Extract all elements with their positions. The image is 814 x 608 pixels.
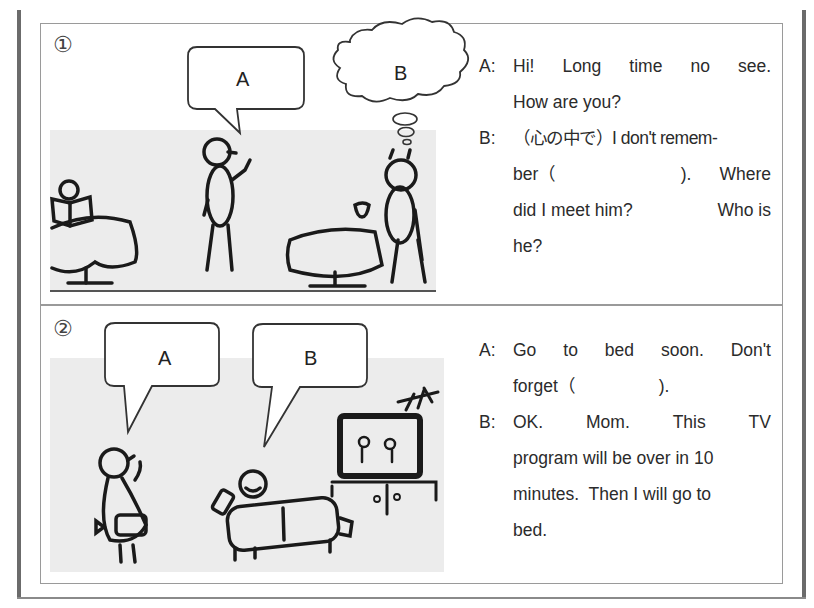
word: bed bbox=[605, 332, 634, 368]
word: minutes. Then I will go to bbox=[513, 476, 711, 512]
word: Mom. bbox=[586, 404, 630, 440]
dialog-line: forget（). bbox=[479, 368, 771, 404]
answer-blank-close: ). bbox=[659, 368, 670, 404]
speaker-label bbox=[479, 440, 513, 476]
word: bed. bbox=[513, 512, 547, 548]
child-at-table-drawing bbox=[211, 471, 352, 560]
answer-blank-open: forget（ bbox=[513, 368, 575, 404]
dialog-line: minutes. Then I will go to bbox=[479, 476, 771, 512]
speaker-label bbox=[479, 476, 513, 512]
mother-drawing bbox=[96, 449, 146, 562]
word: Go bbox=[513, 332, 536, 368]
speech-bubble-a-label: A bbox=[158, 347, 172, 369]
tv-drawing bbox=[332, 388, 438, 514]
speaker-label: B: bbox=[479, 404, 513, 440]
word: program will be over in 10 bbox=[513, 440, 713, 476]
word: OK. bbox=[513, 404, 543, 440]
word: to bbox=[563, 332, 578, 368]
dialog-line: B:OK.Mom.ThisTV bbox=[479, 404, 771, 440]
word: soon. bbox=[661, 332, 704, 368]
panel-2-dialog: A:Gotobedsoon.Don't forget（). B:OK.Mom.T… bbox=[479, 332, 771, 548]
word: TV bbox=[749, 404, 771, 440]
word: Don't bbox=[731, 332, 771, 368]
speaker-label bbox=[479, 512, 513, 548]
dialog-line: bed. bbox=[479, 512, 771, 548]
speaker-label bbox=[479, 368, 513, 404]
speech-bubble-a bbox=[105, 323, 219, 432]
speech-bubble-b-label: B bbox=[304, 347, 317, 369]
word: This bbox=[673, 404, 706, 440]
speaker-label: A: bbox=[479, 332, 513, 368]
dialog-line: program will be over in 10 bbox=[479, 440, 771, 476]
speech-bubble-b bbox=[253, 324, 367, 447]
dialog-line: A:Gotobedsoon.Don't bbox=[479, 332, 771, 368]
